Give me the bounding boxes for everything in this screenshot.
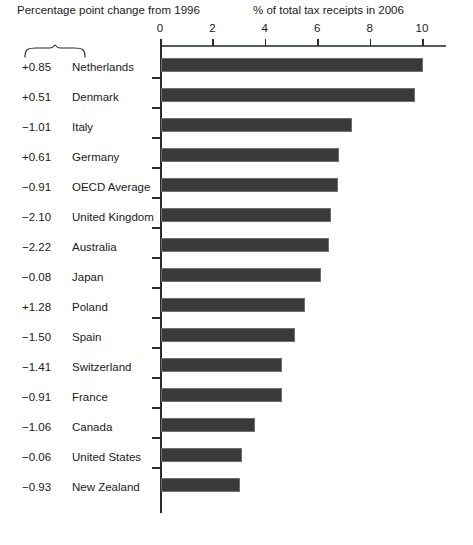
row-change-value: −0.91 <box>22 390 68 405</box>
row-separator-tick <box>152 437 161 439</box>
bar <box>161 298 305 312</box>
row-country-label: Netherlands <box>72 60 134 75</box>
row-separator-tick <box>152 287 161 289</box>
row-country-label: United States <box>72 450 141 465</box>
row-country-label: France <box>72 390 108 405</box>
chart-row: −0.91France <box>0 383 473 413</box>
row-country-label: Poland <box>72 300 108 315</box>
row-country-label: Spain <box>72 330 101 345</box>
row-change-value: +0.51 <box>22 90 68 105</box>
bar <box>161 178 338 192</box>
row-country-label: Germany <box>72 150 119 165</box>
row-separator-tick <box>152 197 161 199</box>
chart-row: +0.61Germany <box>0 143 473 173</box>
bar <box>161 238 329 252</box>
row-change-value: −0.91 <box>22 180 68 195</box>
row-separator-tick <box>152 317 161 319</box>
row-change-value: +0.61 <box>22 150 68 165</box>
chart-row: −2.22Australia <box>0 233 473 263</box>
row-change-value: −1.06 <box>22 420 68 435</box>
chart-row: −0.91OECD Average <box>0 173 473 203</box>
bar <box>161 328 295 342</box>
row-change-value: −0.08 <box>22 270 68 285</box>
chart-rows: +0.85Netherlands+0.51Denmark−1.01Italy+0… <box>0 0 473 545</box>
chart-row: +1.28Poland <box>0 293 473 323</box>
row-country-label: Japan <box>72 270 103 285</box>
chart-row: −0.93New Zealand <box>0 473 473 503</box>
row-separator-tick <box>152 467 161 469</box>
bar <box>161 268 321 282</box>
row-separator-tick <box>152 137 161 139</box>
row-country-label: Canada <box>72 420 112 435</box>
chart-row: +0.51Denmark <box>0 83 473 113</box>
chart-row: −0.08Japan <box>0 263 473 293</box>
row-separator-tick <box>152 167 161 169</box>
row-change-value: −0.93 <box>22 480 68 495</box>
row-separator-tick <box>152 257 161 259</box>
row-country-label: Denmark <box>72 90 119 105</box>
row-change-value: −2.10 <box>22 210 68 225</box>
row-country-label: Australia <box>72 240 117 255</box>
chart-row: −1.01Italy <box>0 113 473 143</box>
bar <box>161 448 242 462</box>
row-change-value: +0.85 <box>22 60 68 75</box>
row-country-label: Italy <box>72 120 93 135</box>
chart-row: +0.85Netherlands <box>0 53 473 83</box>
row-change-value: −1.01 <box>22 120 68 135</box>
row-change-value: +1.28 <box>22 300 68 315</box>
row-change-value: −0.06 <box>22 450 68 465</box>
chart-row: −1.50Spain <box>0 323 473 353</box>
row-country-label: OECD Average <box>72 180 150 195</box>
row-separator-tick <box>152 107 161 109</box>
row-separator-tick <box>152 407 161 409</box>
chart-row: −0.06United States <box>0 443 473 473</box>
bar <box>161 118 352 132</box>
row-change-value: −1.41 <box>22 360 68 375</box>
bar <box>161 208 331 222</box>
bar <box>161 58 423 72</box>
bar <box>161 418 255 432</box>
row-country-label: United Kingdom <box>72 210 154 225</box>
bar <box>161 478 240 492</box>
bar <box>161 148 339 162</box>
row-separator-tick <box>152 377 161 379</box>
bar-chart-figure: Percentage point change from 1996 % of t… <box>0 0 473 545</box>
chart-row: −2.10United Kingdom <box>0 203 473 233</box>
bar <box>161 358 282 372</box>
row-country-label: Switzerland <box>72 360 131 375</box>
row-change-value: −2.22 <box>22 240 68 255</box>
row-separator-tick <box>152 77 161 79</box>
row-separator-tick <box>152 347 161 349</box>
bar <box>161 88 415 102</box>
row-separator-tick <box>152 227 161 229</box>
chart-row: −1.06Canada <box>0 413 473 443</box>
chart-row: −1.41Switzerland <box>0 353 473 383</box>
row-change-value: −1.50 <box>22 330 68 345</box>
row-country-label: New Zealand <box>72 480 140 495</box>
bar <box>161 388 282 402</box>
